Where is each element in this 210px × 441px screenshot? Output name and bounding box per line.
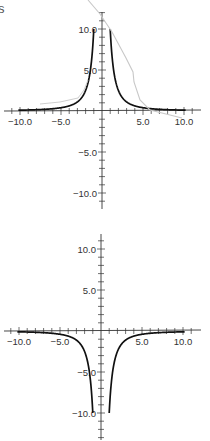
x-tick-label: −5.0 [51, 336, 70, 347]
graph-negative-reciprocal-square: −10.0−5.05.010.010.05.0−5.0−10.0 [4, 234, 201, 440]
y-tick-label: 10.0 [78, 244, 97, 255]
scan-artifact-line [40, 80, 88, 104]
curve-right-branch [110, 29, 185, 110]
y-tick-label: −5.0 [77, 367, 96, 378]
x-tick-label: −10.0 [8, 116, 32, 127]
curve-left-branch [18, 29, 93, 110]
x-tick-label: −10.0 [7, 336, 31, 347]
graph-positive-reciprocal-square: −10.0−5.05.010.010.05.0−5.0−10.0 [4, 0, 201, 209]
graphs-canvas: −10.0−5.05.010.010.05.0−5.0−10.0 −10.0−5… [0, 0, 210, 441]
y-tick-label: 5.0 [83, 285, 96, 296]
x-tick-label: 10.0 [175, 116, 194, 127]
y-tick-label: −10.0 [73, 188, 97, 199]
x-tick-label: 5.0 [135, 336, 148, 347]
x-tick-label: 10.0 [174, 336, 193, 347]
y-tick-label: −5.0 [78, 147, 97, 158]
x-axis [4, 330, 201, 331]
x-tick-label: 5.0 [136, 116, 149, 127]
x-tick-label: −5.0 [52, 116, 71, 127]
